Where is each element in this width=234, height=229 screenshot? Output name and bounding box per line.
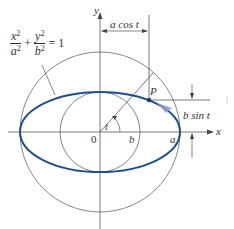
y-axis-label: y <box>93 4 99 16</box>
b-sin-t-label: b sin t <box>183 109 211 121</box>
fraction-x: x2 a2 <box>10 30 21 57</box>
a-cos-t-label: a cos t <box>110 18 140 30</box>
a-label: a <box>170 133 176 145</box>
exponent: 2 <box>41 44 45 53</box>
arrow-right-icon <box>142 29 148 33</box>
radius-line <box>100 73 154 133</box>
origin-label: 0 <box>91 133 97 145</box>
ellipse-diagram: y x 0 P t a cos t b sin t b a x2 a2 + y2… <box>0 0 234 229</box>
exponent: 2 <box>40 29 44 38</box>
x-axis-arrow-icon <box>207 130 214 135</box>
arrow-up-icon <box>190 133 194 139</box>
equation-leader-line <box>42 65 55 95</box>
arrow-down-icon <box>190 93 194 99</box>
angle-label: t <box>105 121 108 132</box>
exponent: 2 <box>17 44 21 53</box>
plus-sign: + <box>24 36 31 51</box>
fraction-y: y2 b2 <box>34 30 45 57</box>
angle-arc <box>113 117 120 132</box>
equals-one: = 1 <box>48 36 64 51</box>
x-axis-label: x <box>215 125 221 137</box>
exponent: 2 <box>16 29 20 38</box>
arrow-left-icon <box>101 29 107 33</box>
point-p <box>147 98 151 102</box>
b-label: b <box>129 133 135 145</box>
point-p-label: P <box>149 85 157 97</box>
ellipse-equation: x2 a2 + y2 b2 = 1 <box>10 30 64 57</box>
